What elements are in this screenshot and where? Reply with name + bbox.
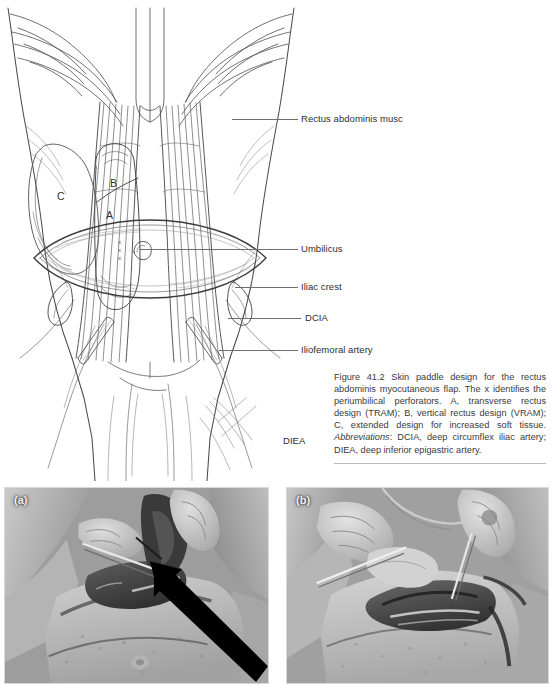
torso-line-drawing [0,6,300,481]
callout-label-dcia: DCIA [305,312,328,323]
photo-panel-a-label: (a) [14,494,27,506]
photo-b-image [287,488,548,683]
anatomical-illustration: A B C x x x [0,6,300,481]
rectus-abdominis-left [76,102,140,362]
figure-caption: Figure 41.2 Skin paddle design for the r… [334,371,546,464]
caption-divider-rule [334,463,546,464]
oblique-hatching [26,126,274,288]
callout-label-rectus-abdominis: Rectus abdominis musc [301,113,403,124]
photo-panel-row: (a) [0,487,552,684]
chest-contour [10,14,292,102]
callout-label-umbilicus: Umbilicus [301,243,343,254]
callout-label-iliac-crest: Iliac crest [301,281,342,292]
leader-line-rectus-abdominis [232,119,298,120]
callout-label-iliofemoral-artery: Iliofemoral artery [301,344,373,355]
iliac-crest [48,282,252,325]
photo-panel-b-label: (b) [296,494,310,506]
tram-skin-paddle [34,220,266,298]
rectus-abdominis-right [160,102,224,362]
leader-line-iliofemoral-artery [219,350,298,351]
figure-caption-text: Figure 41.2 Skin paddle design for the r… [334,371,546,456]
photo-panel-a: (a) [4,487,269,684]
leader-line-iliac-crest [235,287,298,288]
thigh-contours [108,384,192,481]
umbilicus [134,241,151,259]
caption-lead-text: Figure 41.2 Skin paddle design for the r… [334,372,546,430]
perforator-mark-x: x [118,239,121,245]
caption-abbreviations-heading: Abbreviations [334,432,390,442]
photo-panel-b: (b) [286,487,549,684]
sternum [136,8,164,122]
region-letter-b: B [110,177,117,189]
region-letter-a: A [106,209,113,221]
region-letter-c: C [57,190,65,202]
vessel-pedicle-cylinders [78,317,222,364]
callout-label-diea: DIEA [283,435,305,446]
leader-line-umbilicus [140,249,298,250]
leader-line-dcia [228,318,301,319]
inguinal-region [108,360,200,391]
photo-a-image [5,488,268,683]
perforator-mark-x: x [118,255,121,261]
perforator-mark-x: x [118,247,121,253]
